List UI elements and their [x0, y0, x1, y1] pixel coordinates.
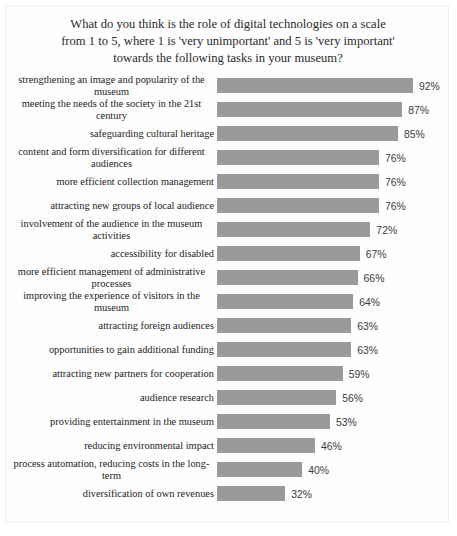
bar — [217, 342, 351, 357]
bar-track: 85% — [217, 126, 447, 141]
bar-row: audience research56% — [6, 386, 450, 410]
bar-value-label: 67% — [366, 248, 387, 259]
category-label: attracting new partners for cooperation — [9, 368, 214, 380]
bar-value-label: 46% — [321, 440, 342, 451]
category-label: providing entertainment in the museum — [9, 416, 214, 428]
bar-value-label: 76% — [385, 200, 406, 211]
category-label: meeting the needs of the society in the … — [9, 98, 214, 121]
bar-row: reducing environmental impact46% — [6, 434, 450, 458]
bar-row: safeguarding cultural heritage85% — [6, 122, 450, 146]
bar-row: attracting new groups of local audience7… — [6, 194, 450, 218]
bar-value-label: 72% — [376, 224, 397, 235]
bar-track: 76% — [217, 174, 447, 189]
bar — [217, 246, 360, 261]
bar — [217, 366, 343, 381]
bar-row: diversification of own revenues32% — [6, 482, 450, 506]
bar-row: involvement of the audience in the museu… — [6, 218, 450, 242]
bar-value-label: 59% — [349, 368, 370, 379]
bar-track: 76% — [217, 150, 447, 165]
bar-row: providing entertainment in the museum53% — [6, 410, 450, 434]
category-label: improving the experience of visitors in … — [9, 290, 214, 313]
bar-value-label: 63% — [357, 320, 378, 331]
bar-row: more efficient collection management76% — [6, 170, 450, 194]
bar-row: content and form diversification for dif… — [6, 146, 450, 170]
category-label: more efficient collection management — [9, 176, 214, 188]
bar-value-label: 92% — [419, 80, 440, 91]
category-label: process automation, reducing costs in th… — [9, 458, 214, 481]
category-label: diversification of own revenues — [9, 488, 214, 500]
category-label: involvement of the audience in the museu… — [9, 218, 214, 241]
bar-track: 63% — [217, 342, 447, 357]
bar-value-label: 56% — [342, 392, 363, 403]
category-label: safeguarding cultural heritage — [9, 128, 214, 140]
bar-track: 87% — [217, 102, 447, 117]
bar-track: 76% — [217, 198, 447, 213]
bar-row: process automation, reducing costs in th… — [6, 458, 450, 482]
bar-track: 46% — [217, 438, 447, 453]
bar — [217, 222, 370, 237]
bar-track: 72% — [217, 222, 447, 237]
bar-value-label: 63% — [357, 344, 378, 355]
bar-row: opportunities to gain additional funding… — [6, 338, 450, 362]
bar-value-label: 76% — [385, 152, 406, 163]
category-label: audience research — [9, 392, 214, 404]
category-label: accessibility for disabled — [9, 248, 214, 260]
bar — [217, 270, 358, 285]
bar — [217, 390, 336, 405]
bar — [217, 438, 315, 453]
bar-row: attracting foreign audiences63% — [6, 314, 450, 338]
bar-row: accessibility for disabled67% — [6, 242, 450, 266]
bar — [217, 414, 330, 429]
chart-container: What do you think is the role of digital… — [5, 5, 449, 523]
category-label: content and form diversification for dif… — [9, 146, 214, 169]
bar-row: meeting the needs of the society in the … — [6, 98, 450, 122]
bar — [217, 102, 402, 117]
bar-track: 64% — [217, 294, 447, 309]
bar-row: strengthening an image and popularity of… — [6, 74, 450, 98]
bar-track: 53% — [217, 414, 447, 429]
chart-title: What do you think is the role of digital… — [28, 16, 428, 67]
bar-track: 59% — [217, 366, 447, 381]
bar-value-label: 53% — [336, 416, 357, 427]
category-label: opportunities to gain additional funding — [9, 344, 214, 356]
bar — [217, 78, 413, 93]
bar-track: 92% — [217, 78, 447, 93]
category-label: attracting new groups of local audience — [9, 200, 214, 212]
bar — [217, 150, 379, 165]
bar — [217, 486, 285, 501]
bar — [217, 198, 379, 213]
bar-track: 63% — [217, 318, 447, 333]
bar-value-label: 64% — [359, 296, 380, 307]
plot-area: strengthening an image and popularity of… — [6, 74, 450, 524]
category-label: strengthening an image and popularity of… — [9, 74, 214, 97]
bar-track: 40% — [217, 462, 447, 477]
bar-track: 56% — [217, 390, 447, 405]
bar-value-label: 85% — [404, 128, 425, 139]
bar-value-label: 40% — [308, 464, 329, 475]
category-label: more efficient management of administrat… — [9, 266, 214, 289]
bar-track: 66% — [217, 270, 447, 285]
bar-value-label: 87% — [408, 104, 429, 115]
bar — [217, 126, 398, 141]
bar-value-label: 32% — [291, 488, 312, 499]
bar-row: more efficient management of administrat… — [6, 266, 450, 290]
bar — [217, 174, 379, 189]
bar — [217, 462, 302, 477]
category-label: attracting foreign audiences — [9, 320, 214, 332]
bar-track: 32% — [217, 486, 447, 501]
category-label: reducing environmental impact — [9, 440, 214, 452]
bar — [217, 294, 353, 309]
bar-value-label: 66% — [364, 272, 385, 283]
bar-track: 67% — [217, 246, 447, 261]
bar — [217, 318, 351, 333]
bar-row: attracting new partners for cooperation5… — [6, 362, 450, 386]
bar-value-label: 76% — [385, 176, 406, 187]
bar-row: improving the experience of visitors in … — [6, 290, 450, 314]
